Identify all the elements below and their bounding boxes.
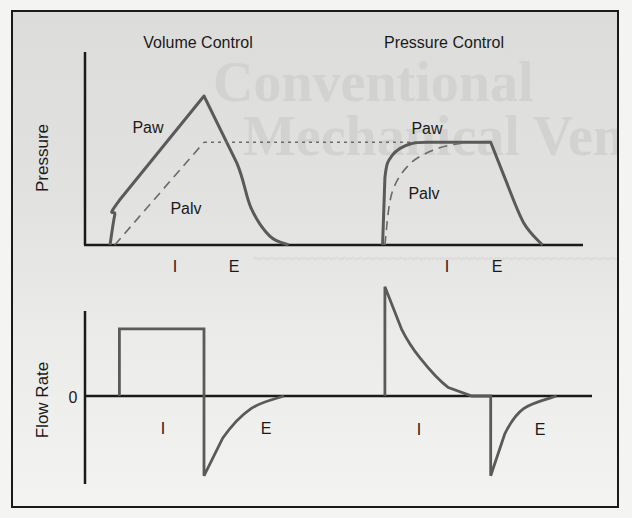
pressure-pc-expiration-label: E	[492, 258, 503, 275]
pc-flow-curve	[385, 287, 557, 476]
flow-vc-expiration-label: E	[261, 420, 272, 437]
flow-zero-tick: 0	[69, 389, 78, 406]
pressure-pc-inspiration-label: I	[445, 258, 449, 275]
vc-palv-curve	[115, 142, 204, 245]
vc-flow-curve	[119, 329, 284, 476]
pc-paw-curve	[383, 142, 543, 245]
pc-palv-label: Palv	[408, 185, 439, 202]
title-volume-control: Volume Control	[143, 34, 252, 51]
waveform-figure: Volume Control Pressure Control Pressure…	[0, 0, 632, 518]
flow-axis-label: Flow Rate	[33, 362, 52, 439]
flow-vc-inspiration-label: I	[161, 420, 165, 437]
title-pressure-control: Pressure Control	[384, 34, 504, 51]
pc-paw-label: Paw	[411, 120, 443, 137]
pressure-vc-inspiration-label: I	[173, 258, 177, 275]
flow-pc-expiration-label: E	[535, 421, 546, 438]
vc-paw-label: Paw	[132, 119, 164, 136]
pressure-axis-label: Pressure	[33, 124, 52, 192]
vc-palv-label: Palv	[170, 200, 201, 217]
flow-pc-inspiration-label: I	[417, 421, 421, 438]
pressure-vc-expiration-label: E	[229, 258, 240, 275]
